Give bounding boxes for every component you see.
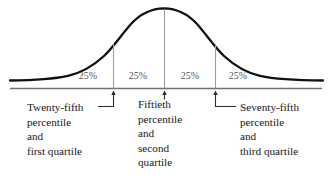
area-percent-label-q2: 25% bbox=[129, 70, 147, 81]
callout-left-line-3: and bbox=[27, 129, 83, 144]
callout-first-quartile: Twenty-fifth percentile and first quarti… bbox=[27, 100, 83, 158]
callout-mid-line-1: Fiftieth bbox=[138, 97, 182, 112]
leader-line-first-quartile bbox=[98, 91, 116, 107]
area-percent-label-q1: 25% bbox=[79, 70, 97, 81]
callout-left-line-4: first quartile bbox=[27, 144, 83, 159]
callout-mid-line-4: second bbox=[138, 141, 182, 156]
callout-mid-line-5: quartile bbox=[138, 155, 182, 170]
callout-right-line-4: third quartile bbox=[240, 144, 299, 159]
callout-left-line-2: percentile bbox=[27, 115, 83, 130]
callout-third-quartile: Seventy-fifth percentile and third quart… bbox=[240, 100, 299, 158]
area-percent-label-q4: 25% bbox=[229, 70, 247, 81]
callout-left-line-1: Twenty-fifth bbox=[27, 100, 83, 115]
callout-mid-line-2: percentile bbox=[138, 112, 182, 127]
callout-mid-line-3: and bbox=[138, 126, 182, 141]
callout-second-quartile: Fiftieth percentile and second quartile bbox=[138, 97, 182, 170]
callout-right-line-3: and bbox=[240, 129, 299, 144]
area-percent-label-q3: 25% bbox=[181, 70, 199, 81]
callout-right-line-2: percentile bbox=[240, 115, 299, 130]
normal-distribution-quartiles-diagram: 25% 25% 25% 25% Twenty-fifth percentile … bbox=[0, 0, 329, 181]
callout-right-line-1: Seventy-fifth bbox=[240, 100, 299, 115]
bell-curve bbox=[10, 8, 323, 80]
leader-line-third-quartile bbox=[213, 91, 236, 107]
